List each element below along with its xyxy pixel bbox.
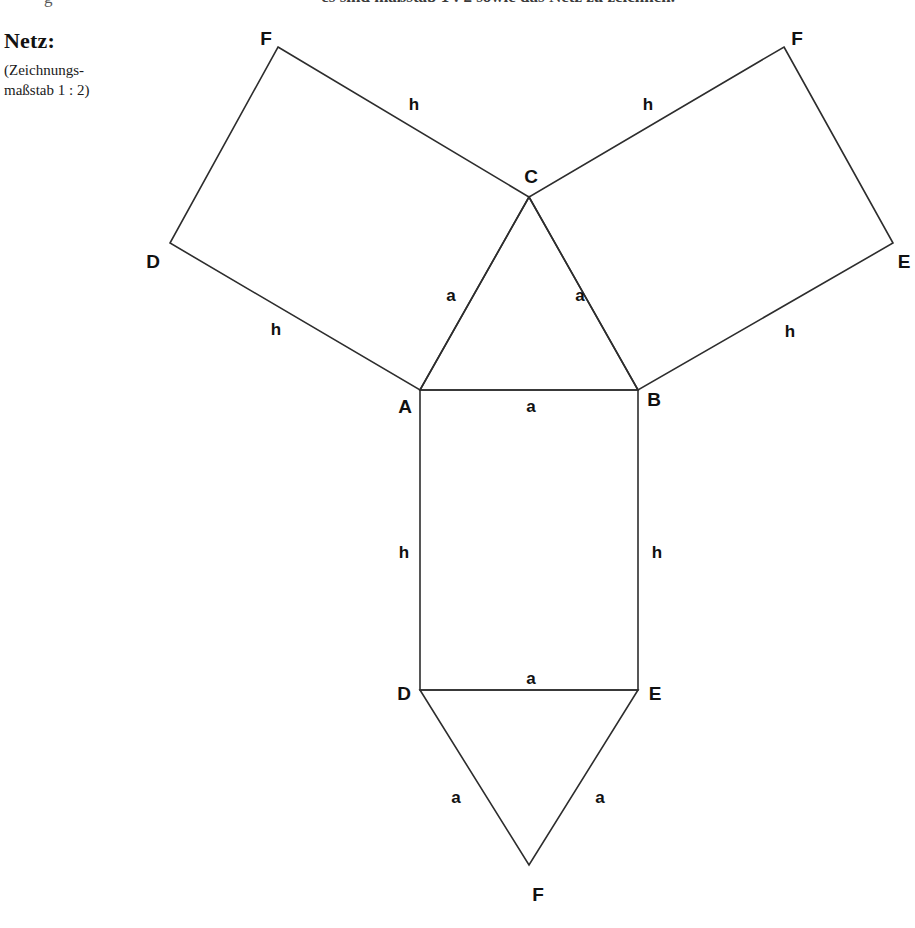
face-right-rectangle	[529, 47, 893, 390]
edge-label-a-triangle-left: a	[446, 286, 455, 306]
vertex-label-D-left: D	[146, 251, 160, 273]
edge-label-a-DE: a	[526, 669, 535, 689]
face-bottom-triangle	[420, 690, 638, 865]
vertex-label-E-right: E	[898, 251, 911, 273]
edge-label-a-bottom-right: a	[595, 788, 604, 808]
edge-label-h-rect-left: h	[399, 543, 409, 563]
edge-label-h-top-left: h	[409, 95, 419, 115]
vertex-label-A: A	[398, 396, 412, 418]
vertex-label-F-top-right: F	[791, 28, 803, 50]
vertex-label-F-bottom: F	[532, 884, 544, 906]
edge-label-h-lower-left: h	[271, 320, 281, 340]
vertex-label-E-bottom: E	[649, 683, 662, 705]
edge-label-h-rect-right: h	[652, 543, 662, 563]
face-middle-rectangle	[420, 390, 638, 690]
edge-label-h-lower-right: h	[785, 322, 795, 342]
edge-label-a-bottom-left: a	[451, 788, 460, 808]
edge-label-h-top-right: h	[643, 95, 653, 115]
diagram-page: g — es sind maßstab 1 : 2 sowie das Netz…	[0, 0, 915, 928]
vertex-label-D-bottom: D	[397, 683, 411, 705]
vertex-label-F-top-left: F	[260, 28, 272, 50]
vertex-label-B: B	[647, 389, 661, 411]
vertex-label-C: C	[524, 166, 538, 188]
edge-label-a-triangle-right: a	[575, 286, 584, 306]
edge-label-a-AB: a	[526, 397, 535, 417]
face-left-rectangle	[170, 47, 529, 390]
